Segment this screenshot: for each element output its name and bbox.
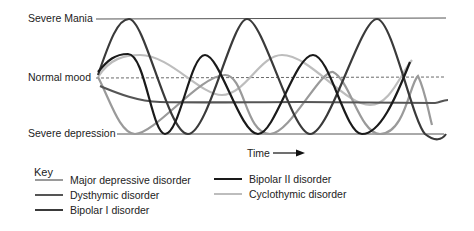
legend-item-major-depressive: Major depressive disorder — [35, 174, 191, 186]
legend-swatch-bipolar-i — [35, 209, 63, 211]
legend-item-bipolar-ii: Bipolar II disorder — [214, 173, 331, 185]
legend-swatch-major-depressive — [35, 179, 63, 181]
legend-label: Dysthymic disorder — [70, 189, 159, 201]
normal-mood-line — [96, 77, 446, 78]
legend-label: Cyclothymic disorder — [249, 188, 346, 200]
legend-label: Bipolar I disorder — [70, 204, 149, 216]
legend-item-cyclothymic: Cyclothymic disorder — [214, 188, 346, 200]
legend-item-dysthymic: Dysthymic disorder — [35, 189, 159, 201]
severe-mania-line — [96, 18, 446, 19]
legend-label: Bipolar II disorder — [249, 173, 331, 185]
legend-item-bipolar-i: Bipolar I disorder — [35, 204, 149, 216]
legend-swatch-cyclothymic — [214, 193, 242, 195]
series-cyclothymic — [98, 55, 412, 105]
time-arrow-head — [296, 150, 305, 157]
time-label: Time — [247, 147, 270, 159]
legend-swatch-bipolar-ii — [214, 178, 242, 180]
legend-swatch-dysthymic — [35, 194, 63, 196]
legend-label: Major depressive disorder — [70, 174, 191, 186]
